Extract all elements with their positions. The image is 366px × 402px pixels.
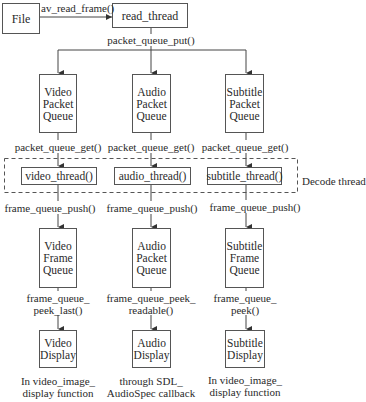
edge-label-video-frame-queue-peek-last: frame_queue_ peek_last() <box>18 292 98 316</box>
subtitle-packet-queue-node: Subtitle Packet Queue <box>225 74 264 133</box>
subtitle-display-node: Subtitle Display <box>225 330 265 368</box>
subtitle-frame-queue-node: Subtitle Frame Queue <box>225 228 264 288</box>
edge-label-subtitle-frame-queue-peek: frame_queue_ peek() <box>205 292 285 316</box>
edge-label-packet-queue-put: packet_queue_put() <box>106 34 196 46</box>
video-frame-queue-node: Video Frame Queue <box>39 228 77 288</box>
edge-label-subtitle-frame-queue-push: frame_queue_push() <box>207 201 303 213</box>
video-packet-queue-node: Video Packet Queue <box>39 74 77 133</box>
subtitle-display-caption: In video_image_ display function <box>200 374 290 398</box>
audio-packet-queue-node: Audio Packet Queue <box>132 74 171 133</box>
edge-label-audio-frame-queue-push: frame_queue_push() <box>104 202 200 214</box>
edge-label-audio-frame-queue-peek-readable: frame_queue_peek_ readable() <box>106 292 196 316</box>
video-thread-node: video_thread() <box>21 167 97 185</box>
decode-thread-label: Decode thread <box>302 175 366 187</box>
read-thread-node: read_thread <box>112 3 188 28</box>
edge-label-av-read-frame: av_read_frame() <box>41 2 114 14</box>
audio-display-caption: through SDL_ AudioSpec callback <box>100 375 202 399</box>
audio-display-node: Audio Display <box>132 330 171 368</box>
file-node: File <box>2 3 40 34</box>
video-display-node: Video Display <box>39 330 77 368</box>
edge-label-video-frame-queue-push: frame_queue_push() <box>2 202 98 214</box>
audio-frame-queue-node: Audio Packet Queue <box>132 228 171 288</box>
subtitle-thread-node: subtitle_thread() <box>207 167 282 185</box>
audio-thread-node: audio_thread() <box>114 167 191 185</box>
edge-label-subtitle-packet-queue-get: packet_queue_get() <box>190 141 300 153</box>
video-display-caption: In video_image_ display function <box>13 375 103 399</box>
